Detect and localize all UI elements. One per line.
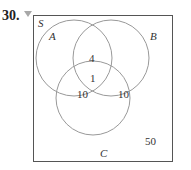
region-a-b-value: 4 [89,52,95,64]
set-a-label: A [48,30,56,42]
region-outside-value: 50 [145,135,157,147]
venn-diagram: S A B C 4 1 10 10 50 [0,0,191,170]
set-c-label: C [100,147,108,159]
set-a-circle [36,20,112,96]
region-a-c-value: 10 [77,88,89,100]
set-b-circle [73,20,149,96]
universe-label: S [38,17,44,29]
set-b-label: B [150,30,157,42]
region-a-b-c-value: 1 [90,72,96,84]
region-b-c-value: 10 [118,88,130,100]
